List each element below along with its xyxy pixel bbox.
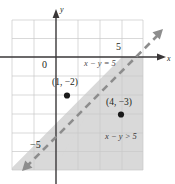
data-point-2 — [118, 111, 124, 117]
inequality-graph-figure: y x 0 5 −5 x − y = 5 x − y > 5 (1, −2) (… — [0, 0, 175, 184]
graph-canvas — [0, 0, 175, 184]
data-point-1 — [64, 92, 70, 98]
